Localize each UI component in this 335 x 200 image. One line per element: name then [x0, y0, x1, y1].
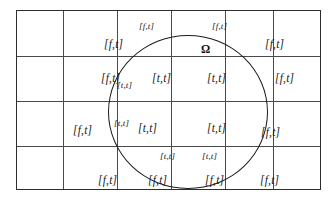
cell-label-2: [f,t]: [212, 22, 227, 31]
cell-label-1: [f,t]: [139, 22, 154, 31]
omega-circle-boundary: [108, 35, 268, 189]
cell-label-0: [f,t]: [104, 39, 123, 51]
grid-frame: [f,t][f,t][f,t][f,t][f,t][t,t][t,t][t,t]…: [16, 10, 321, 190]
cell-label-19: [f,t]: [260, 175, 279, 187]
cell-label-16: [f,t]: [98, 175, 117, 187]
grid-vline-1: [63, 11, 64, 189]
cell-label-8: [f,t]: [275, 73, 294, 85]
omega-domain-label: Ω: [201, 44, 210, 56]
cell-label-9: [f,t]: [73, 125, 92, 137]
figure-canvas: [f,t][f,t][f,t][f,t][f,t][t,t][t,t][t,t]…: [0, 0, 335, 200]
cell-label-3: [f,t]: [265, 39, 284, 51]
